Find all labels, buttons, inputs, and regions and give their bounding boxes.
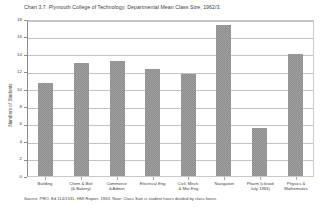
x-tick-label: Physics & Mathematics: [278, 181, 314, 195]
bar-slot: [277, 21, 313, 176]
x-tick-label: Electrical Eng: [135, 181, 171, 195]
x-tick-label: Civil, Mech. & Mar Eng: [171, 181, 207, 195]
x-tick-mark: [117, 177, 118, 180]
plot-region: [27, 20, 314, 177]
y-tick-label: 14: [0, 52, 22, 57]
bar[interactable]: [288, 54, 303, 176]
y-tick-label: 6: [0, 121, 22, 126]
x-tick-mark: [188, 177, 189, 180]
bar[interactable]: [38, 83, 53, 176]
bar-slot: [28, 21, 64, 176]
bar[interactable]: [110, 61, 125, 176]
y-tick-label: 12: [0, 69, 22, 74]
bar[interactable]: [181, 74, 196, 176]
bar-slot: [64, 21, 100, 176]
bar-slot: [135, 21, 171, 176]
bar[interactable]: [145, 69, 160, 176]
bar[interactable]: [252, 128, 267, 176]
y-tick-label: 16: [0, 34, 22, 39]
x-tick-mark: [81, 177, 82, 180]
y-tick-label: 2: [0, 156, 22, 161]
x-tick-label: Navigation: [206, 181, 242, 195]
y-tick-label: 8: [0, 104, 22, 109]
x-tick-label: Pharm (closed July 1963): [242, 181, 278, 195]
plot-area: [27, 20, 314, 177]
bars-container: [28, 21, 313, 176]
chart-figure: Chart 3.7. Plymouth College of Technolog…: [0, 0, 323, 207]
y-tick-label: 18: [0, 17, 22, 22]
y-axis-ticks: 024681012141618: [0, 20, 27, 177]
y-tick-label: 10: [0, 87, 22, 92]
x-tick-mark: [153, 177, 154, 180]
bar-slot: [206, 21, 242, 176]
bar-slot: [242, 21, 278, 176]
y-tick-label: 4: [0, 139, 22, 144]
x-tick-mark: [260, 177, 261, 180]
bar[interactable]: [216, 25, 231, 176]
x-tick-mark: [296, 177, 297, 180]
x-tick-mark: [45, 177, 46, 180]
y-tick-label: 0: [0, 174, 22, 179]
x-tick-label: Building: [27, 181, 63, 195]
bar-slot: [171, 21, 207, 176]
x-axis-labels: BuildingChem & Biol (& Bakery)Commerce &…: [27, 181, 314, 195]
chart-title: Chart 3.7. Plymouth College of Technolog…: [24, 4, 221, 10]
x-tick-label: Chem & Biol (& Bakery): [63, 181, 99, 195]
bar[interactable]: [74, 63, 89, 176]
source-note: Source: PRO, Ed 114/1531, HMI Report, 19…: [24, 196, 217, 201]
bar-slot: [99, 21, 135, 176]
x-tick-mark: [224, 177, 225, 180]
x-tick-label: Commerce & Admin: [99, 181, 135, 195]
